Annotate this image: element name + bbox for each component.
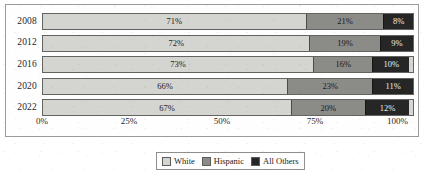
bar-row-year-label: 2020 (6, 82, 42, 92)
x-axis-tick-label: 100% (387, 117, 408, 126)
legend-entry: All Others (251, 157, 299, 166)
bar-segment-value-label: 11% (385, 82, 400, 91)
bar-segment-value-label: 73% (170, 60, 186, 69)
bar-segment-hispanic: 16% (313, 57, 372, 72)
bar-segment-value-label: 9% (391, 39, 402, 48)
bar-row-year-label: 2022 (6, 103, 42, 113)
chart-legend: WhiteHispanicAll Others (156, 152, 305, 170)
bar-segment-hispanic: 21% (306, 14, 384, 29)
legend-swatch-icon (202, 157, 211, 166)
bar-row-year-label: 2016 (6, 60, 42, 70)
bar-row-year-label: 2008 (6, 17, 42, 27)
legend-label: All Others (263, 157, 299, 166)
bar-segment-value-label: 67% (159, 104, 175, 113)
bar-track: 73%16%10% (42, 56, 414, 73)
x-axis-tick-label: 50% (214, 117, 231, 126)
bar-segment-hispanic: 19% (309, 36, 379, 51)
bar-segment-value-label: 16% (335, 60, 351, 69)
bar-segment-value-label: 8% (393, 17, 404, 26)
x-axis-tick-label: 25% (121, 117, 138, 126)
bar-track: 72%19%9% (42, 35, 414, 52)
bar-row: 201673%16%10% (6, 54, 420, 75)
x-axis-tick-label: 0% (36, 117, 48, 126)
bar-track: 66%23%11% (42, 78, 414, 95)
bar-segment-white: 71% (43, 14, 306, 29)
bar-track: 71%21%8% (42, 13, 414, 30)
bar-row: 201272%19%9% (6, 33, 420, 54)
bar-row: 202066%23%11% (6, 76, 420, 97)
bar-row: 200871%21%8% (6, 11, 420, 32)
bar-segment-all-others: 8% (383, 14, 413, 29)
bar-segment-all-others: 10% (372, 57, 409, 72)
bar-segment-white: 73% (43, 57, 313, 72)
bar-segment-value-label: 10% (383, 60, 399, 69)
legend-label: Hispanic (214, 157, 244, 166)
bar-segment-white: 66% (43, 79, 287, 94)
bar-segment-value-label: 71% (167, 17, 183, 26)
legend-swatch-icon (251, 157, 260, 166)
bar-row-year-label: 2012 (6, 38, 42, 48)
x-axis: 0%25%50%75%100% (36, 114, 408, 132)
bar-segment-value-label: 19% (337, 39, 353, 48)
legend-entry: White (162, 157, 195, 166)
bar-segment-value-label: 20% (321, 104, 337, 113)
x-axis-tick-label: 75% (307, 117, 324, 126)
bar-segment-value-label: 66% (157, 82, 173, 91)
legend-swatch-icon (162, 157, 171, 166)
bar-segment-value-label: 72% (168, 39, 184, 48)
bar-segment-white: 72% (43, 36, 309, 51)
bar-segment-value-label: 12% (380, 104, 396, 113)
legend-label: White (174, 157, 195, 166)
bar-segment-all-others: 9% (380, 36, 413, 51)
bar-segment-value-label: 21% (337, 17, 353, 26)
bar-segment-hispanic: 23% (287, 79, 372, 94)
legend-entry: Hispanic (202, 157, 244, 166)
bar-segment-value-label: 23% (322, 82, 338, 91)
bar-segment-all-others: 11% (372, 79, 413, 94)
